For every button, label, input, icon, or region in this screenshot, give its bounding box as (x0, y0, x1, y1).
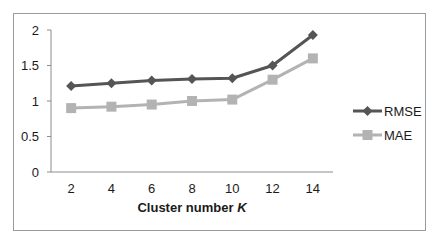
x-axis-title: Cluster number K (137, 200, 248, 215)
square-marker (187, 96, 197, 106)
x-tick-label: 2 (68, 181, 75, 196)
legend-item-mae: MAE (353, 128, 413, 143)
square-marker (66, 103, 76, 113)
y-axis-ticks: 00.511.52 (21, 23, 51, 180)
x-tick-label: 8 (188, 181, 195, 196)
x-tick-label: 14 (306, 181, 320, 196)
x-tick-label: 6 (148, 181, 155, 196)
legend-square-icon (363, 130, 373, 140)
series-rmse (66, 30, 318, 91)
square-marker (106, 102, 116, 112)
legend-label: MAE (384, 128, 413, 143)
square-marker (227, 95, 237, 105)
data-series (66, 30, 318, 113)
square-marker (147, 100, 157, 110)
x-tick-label: 4 (108, 181, 115, 196)
x-tick-label: 12 (265, 181, 279, 196)
y-tick-label: 2 (32, 23, 39, 38)
legend-item-rmse: RMSE (353, 104, 422, 119)
square-marker (268, 75, 278, 85)
x-tick-label: 10 (225, 181, 239, 196)
square-marker (308, 53, 318, 63)
y-tick-label: 0.5 (21, 129, 39, 144)
y-tick-label: 0 (32, 165, 39, 180)
legend-label: RMSE (384, 104, 422, 119)
x-axis-ticks: 2468101214 (68, 181, 321, 196)
diamond-marker (187, 74, 197, 84)
y-tick-label: 1 (32, 94, 39, 109)
y-tick-label: 1.5 (21, 58, 39, 73)
legend: RMSEMAE (353, 104, 422, 143)
diamond-marker (66, 81, 76, 91)
diamond-marker (227, 73, 237, 83)
legend-diamond-icon (363, 106, 373, 116)
line-chart: 00.511.52 2468101214 Cluster number K RM… (0, 0, 440, 248)
diamond-marker (147, 75, 157, 85)
diamond-marker (106, 78, 116, 88)
